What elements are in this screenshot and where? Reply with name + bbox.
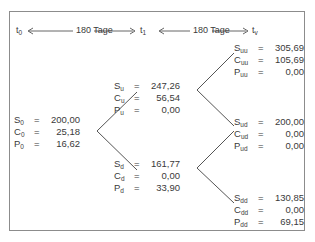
node-symbol: Pd bbox=[114, 182, 134, 195]
figure-canvas: t0 180 Tage t1 180 Tage tv S0=200,00 C0=… bbox=[0, 0, 315, 242]
equals-sign: = bbox=[258, 116, 266, 128]
t1-down-node: Sd=161,77 Cd=0,00 Pd=33,90 bbox=[114, 158, 180, 194]
node-value: 16,62 bbox=[42, 138, 80, 150]
node-value: 161,77 bbox=[142, 158, 180, 170]
node-row: Pdd=69,15 bbox=[234, 216, 304, 228]
node-symbol: Pud bbox=[234, 140, 258, 153]
node-symbol: P0 bbox=[14, 138, 34, 151]
node-row: C0=25,18 bbox=[14, 126, 80, 138]
equals-sign: = bbox=[134, 80, 142, 92]
node-symbol: Puu bbox=[234, 66, 258, 79]
equals-sign: = bbox=[258, 42, 266, 54]
equals-sign: = bbox=[134, 170, 142, 182]
node-value: 33,90 bbox=[142, 182, 180, 194]
node-row: Suu=305,69 bbox=[234, 42, 304, 54]
node-value: 200,00 bbox=[42, 114, 80, 126]
equals-sign: = bbox=[134, 182, 142, 194]
node-value: 0,00 bbox=[266, 140, 304, 152]
node-value: 247,26 bbox=[142, 80, 180, 92]
equals-sign: = bbox=[258, 66, 266, 78]
t0-root-node: S0=200,00 C0=25,18 P0=16,62 bbox=[14, 114, 80, 150]
node-row: Sd=161,77 bbox=[114, 158, 180, 170]
node-value: 0,00 bbox=[142, 170, 180, 182]
node-value: 0,00 bbox=[266, 128, 304, 140]
node-value: 56,54 bbox=[142, 92, 180, 104]
node-row: Cud=0,00 bbox=[234, 128, 304, 140]
node-row: Pu=0,00 bbox=[114, 104, 180, 116]
node-row: Cuu=105,69 bbox=[234, 54, 304, 66]
equals-sign: = bbox=[258, 54, 266, 66]
equals-sign: = bbox=[134, 92, 142, 104]
node-row: Cdd=0,00 bbox=[234, 204, 304, 216]
time-label-t0: t0 bbox=[16, 25, 22, 36]
node-row: Sud=200,00 bbox=[234, 116, 304, 128]
time-label-tv: tv bbox=[252, 25, 258, 36]
period-2-label: 180 Tage bbox=[193, 25, 230, 35]
equals-sign: = bbox=[258, 128, 266, 140]
equals-sign: = bbox=[258, 140, 266, 152]
node-value: 305,69 bbox=[266, 42, 304, 54]
period-1-label: 180 Tage bbox=[76, 25, 113, 35]
equals-sign: = bbox=[258, 192, 266, 204]
node-row: Pud=0,00 bbox=[234, 140, 304, 152]
node-row: Cd=0,00 bbox=[114, 170, 180, 182]
node-symbol: Pu bbox=[114, 104, 134, 117]
t2-down-down-node: Sdd=130,85 Cdd=0,00 Pdd=69,15 bbox=[234, 192, 304, 228]
equals-sign: = bbox=[34, 126, 42, 138]
node-symbol: Pdd bbox=[234, 216, 258, 229]
equals-sign: = bbox=[34, 114, 42, 126]
node-row: Pd=33,90 bbox=[114, 182, 180, 194]
node-row: Su=247,26 bbox=[114, 80, 180, 92]
node-row: Sdd=130,85 bbox=[234, 192, 304, 204]
node-value: 105,69 bbox=[266, 54, 304, 66]
equals-sign: = bbox=[258, 216, 266, 228]
equals-sign: = bbox=[258, 204, 266, 216]
node-value: 200,00 bbox=[266, 116, 304, 128]
equals-sign: = bbox=[34, 138, 42, 150]
node-value: 0,00 bbox=[266, 66, 304, 78]
node-value: 69,15 bbox=[266, 216, 304, 228]
t1-up-node: Su=247,26 Cu=56,54 Pu=0,00 bbox=[114, 80, 180, 116]
equals-sign: = bbox=[134, 104, 142, 116]
t2-up-up-node: Suu=305,69 Cuu=105,69 Puu=0,00 bbox=[234, 42, 304, 78]
node-row: Cu=56,54 bbox=[114, 92, 180, 104]
node-row: P0=16,62 bbox=[14, 138, 80, 150]
equals-sign: = bbox=[134, 158, 142, 170]
node-value: 0,00 bbox=[142, 104, 180, 116]
node-row: Puu=0,00 bbox=[234, 66, 304, 78]
node-value: 0,00 bbox=[266, 204, 304, 216]
node-value: 130,85 bbox=[266, 192, 304, 204]
time-label-t1: t1 bbox=[140, 25, 146, 36]
node-row: S0=200,00 bbox=[14, 114, 80, 126]
t2-up-down-node: Sud=200,00 Cud=0,00 Pud=0,00 bbox=[234, 116, 304, 152]
node-value: 25,18 bbox=[42, 126, 80, 138]
